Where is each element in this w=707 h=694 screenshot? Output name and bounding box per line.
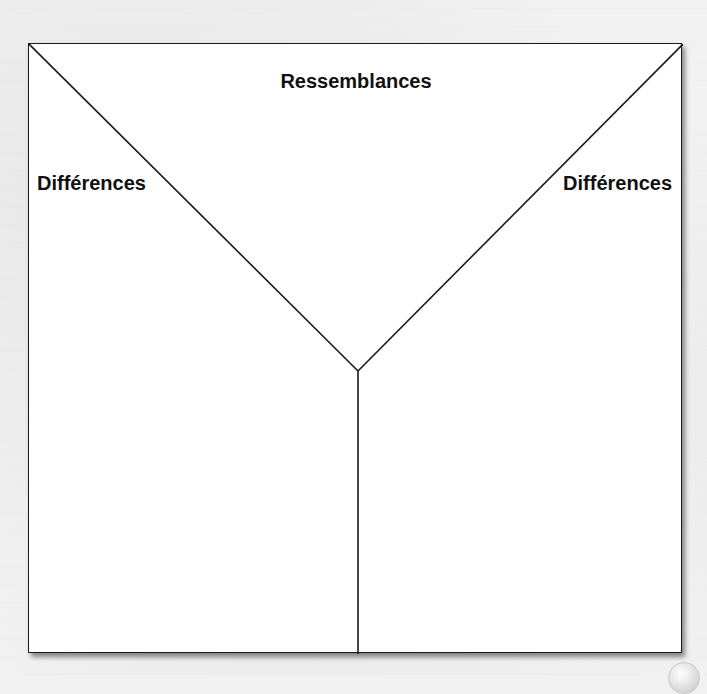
y-chart-lines bbox=[29, 44, 683, 654]
page-corner-circle-icon bbox=[668, 662, 700, 694]
region-label-differences-left: Différences bbox=[37, 173, 146, 193]
region-label-similarities: Ressemblances bbox=[29, 71, 683, 91]
y-chart-frame: Ressemblances Différences Différences bbox=[28, 43, 682, 653]
left-diagonal-divider bbox=[29, 44, 358, 371]
right-diagonal-divider bbox=[358, 44, 683, 371]
region-label-differences-right: Différences bbox=[563, 173, 672, 193]
